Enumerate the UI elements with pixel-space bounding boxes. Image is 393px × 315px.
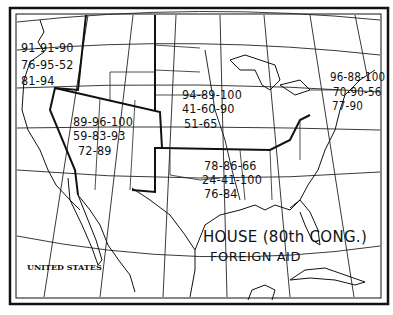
- region-midwest-row-1: 94-89-100: [182, 89, 242, 102]
- region-northeast-row-3: 77-90: [332, 101, 363, 113]
- map-title-line-2: FOREIGN AID: [210, 249, 301, 264]
- region-pacific-northwest-row-2: 76-95-52: [21, 59, 74, 72]
- region-pacific-northwest-row-3: 81-94: [21, 75, 55, 88]
- region-south-row-2: 24-41-100: [202, 174, 262, 187]
- region-mountain-west-row-2: 59-83-93: [73, 130, 126, 143]
- region-south-row-1: 78-86-66: [204, 160, 257, 173]
- foreign-aid-vote-map: 91-91-90 76-95-52 81-94 89-96-100 59-83-…: [0, 0, 393, 315]
- region-mountain-west-row-3: 72-89: [78, 145, 112, 158]
- region-pacific-northwest-row-1: 91-91-90: [21, 42, 74, 55]
- region-midwest-row-2: 41-60-90: [182, 103, 235, 116]
- region-mountain-west-row-1: 89-96-100: [73, 116, 133, 129]
- region-south-row-3: 76-84: [204, 188, 238, 201]
- region-midwest-row-3: 51-65: [184, 118, 218, 131]
- country-label: UNITED STATES: [27, 262, 102, 272]
- map-title-line-1: HOUSE (80th CONG.): [203, 228, 367, 246]
- region-northeast-row-2: 70-90-56: [333, 87, 382, 99]
- region-northeast-row-1: 96-88-100: [330, 72, 385, 84]
